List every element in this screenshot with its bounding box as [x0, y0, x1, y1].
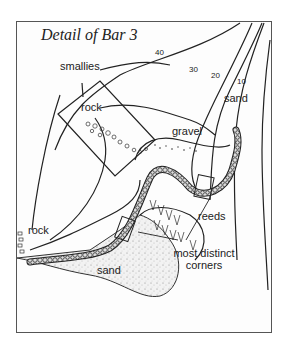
label-sand-top: sand [224, 92, 248, 104]
shore-right [262, 40, 270, 290]
gravel-contour-lower [135, 138, 230, 160]
left-rock-cobbles [18, 232, 24, 253]
label-corners-line1: most distinct [164, 247, 244, 259]
label-rock-top: rock [81, 101, 102, 113]
depth-label-10: 10 [237, 76, 246, 88]
label-rock-left: rock [28, 224, 49, 236]
label-sand-bottom: sand [97, 264, 121, 276]
label-reeds: reeds [198, 210, 226, 222]
label-corners-line2: corners [164, 259, 244, 271]
bar-map-drawing [0, 0, 288, 353]
contour-left-outer [32, 95, 60, 230]
depth-label-40: 40 [155, 47, 164, 59]
depth-label-30: 30 [189, 64, 198, 76]
label-smallies: smallies [60, 60, 100, 72]
rock-cobbles [86, 122, 148, 154]
gravel-dots [154, 144, 197, 152]
label-most-distinct-corners: most distinct corners [164, 247, 244, 271]
depth-label-20: 20 [211, 70, 220, 82]
map-title: Detail of Bar 3 [41, 26, 137, 44]
label-gravel: gravel [172, 125, 202, 137]
rock-detail-box [58, 81, 155, 176]
